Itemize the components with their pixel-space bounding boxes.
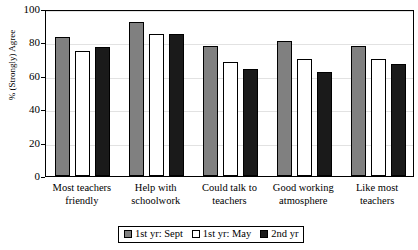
x-category-label: Like mostteachers (340, 182, 414, 207)
x-category-label-line: Could talk to (193, 182, 267, 195)
legend-swatch-icon (124, 230, 132, 238)
legend-item[interactable]: 1st yr: May (192, 228, 251, 240)
x-axis-category-labels: Most teachersfriendlyHelp withschoolwork… (45, 182, 414, 218)
legend-item[interactable]: 1st yr: Sept (124, 228, 183, 240)
bar (95, 47, 110, 176)
plot-area (45, 10, 414, 177)
bar (297, 59, 312, 176)
legend-swatch-icon (192, 230, 200, 238)
bar (75, 51, 90, 176)
x-category-label-line: atmosphere (266, 195, 340, 208)
chart-legend: 1st yr: Sept1st yr: May2nd yr (118, 226, 304, 243)
y-tick-label: 100 (14, 4, 40, 15)
bar-group (46, 11, 120, 176)
x-category-label-line: schoolwork (119, 195, 193, 208)
y-tick-label: 40 (14, 104, 40, 115)
bar (277, 41, 292, 176)
bar (149, 34, 164, 176)
bar (371, 59, 386, 176)
x-category-label-line: friendly (45, 195, 119, 208)
bars-layer (46, 11, 413, 176)
y-tick-label: 80 (14, 37, 40, 48)
bar (169, 34, 184, 176)
legend-label: 1st yr: Sept (135, 228, 183, 240)
x-category-label: Most teachersfriendly (45, 182, 119, 207)
legend-item[interactable]: 2nd yr (260, 228, 298, 240)
y-tick-label: 20 (14, 138, 40, 149)
bar (223, 62, 238, 176)
x-category-label-line: Help with (119, 182, 193, 195)
bar (243, 69, 258, 176)
x-category-label: Could talk toteachers (193, 182, 267, 207)
x-category-label-line: Like most (340, 182, 414, 195)
bar (391, 64, 406, 176)
legend-label: 1st yr: May (203, 228, 251, 240)
bar (351, 46, 366, 176)
y-axis-tick-labels: 020406080100 (14, 0, 40, 250)
bar-group (120, 11, 194, 176)
x-category-label: Good workingatmosphere (266, 182, 340, 207)
y-tick-mark (41, 177, 45, 178)
bar (129, 22, 144, 176)
x-category-label-line: Most teachers (45, 182, 119, 195)
bar (317, 72, 332, 176)
y-tick-label: 60 (14, 71, 40, 82)
x-category-label-line: Good working (266, 182, 340, 195)
bar-group (194, 11, 268, 176)
legend-label: 2nd yr (271, 228, 298, 240)
x-category-label-line: teachers (340, 195, 414, 208)
bar-group (341, 11, 415, 176)
bar (203, 46, 218, 176)
legend-swatch-icon (260, 230, 268, 238)
x-category-label: Help withschoolwork (119, 182, 193, 207)
y-tick-label: 0 (14, 171, 40, 182)
bar-chart: % (Strongly) Agree 020406080100 Most tea… (0, 0, 418, 250)
bar-group (267, 11, 341, 176)
bar (55, 37, 70, 176)
x-category-label-line: teachers (193, 195, 267, 208)
